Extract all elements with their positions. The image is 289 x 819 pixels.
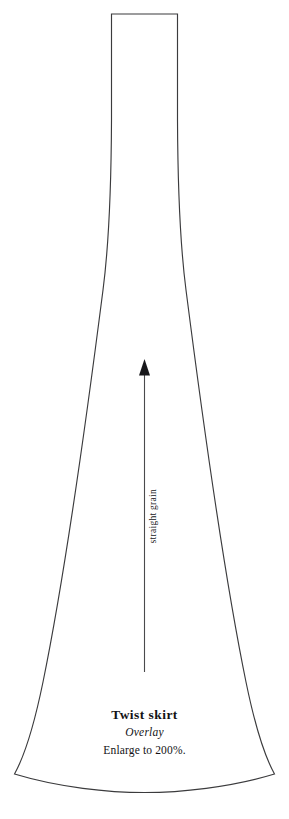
- piece-title: Twist skirt: [0, 708, 289, 722]
- piece-subtitle: Overlay: [0, 727, 289, 739]
- pattern-piece-drawing: [0, 0, 289, 819]
- piece-scale-instruction: Enlarge to 200%.: [0, 745, 289, 757]
- pattern-sheet: straight grain Twist skirt Overlay Enlar…: [0, 0, 289, 819]
- straight-grain-label: straight grain: [148, 489, 158, 543]
